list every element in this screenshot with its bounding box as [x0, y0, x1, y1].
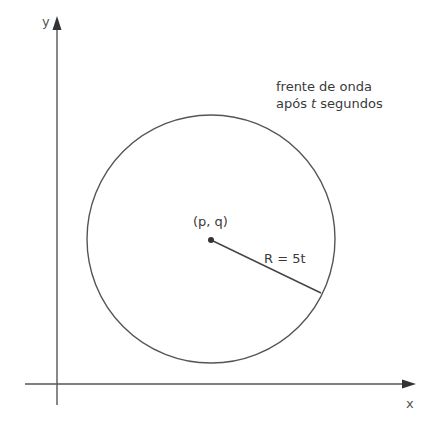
x-axis-label: x: [406, 396, 414, 411]
radius-label: R = 5t: [264, 250, 306, 267]
y-axis-label: y: [42, 14, 50, 29]
annotation-prefix: após: [276, 96, 311, 111]
center-point: [208, 237, 214, 243]
annotation-line-2: após t segundos: [276, 95, 383, 112]
x-axis-arrow-icon: [402, 380, 416, 389]
annotation-line-1: frente de onda: [276, 78, 383, 95]
annotation-suffix: segundos: [316, 96, 383, 111]
center-label: (p, q): [193, 213, 228, 230]
wavefront-annotation: frente de onda após t segundos: [276, 78, 383, 112]
y-axis-arrow-icon: [53, 16, 62, 30]
